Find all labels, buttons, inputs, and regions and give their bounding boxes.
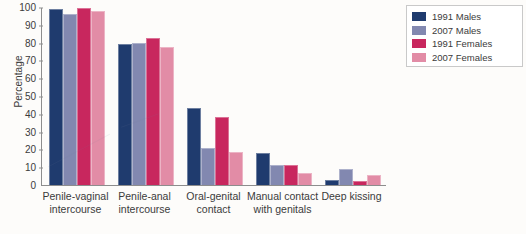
y-tick-label: 40 bbox=[3, 110, 36, 120]
y-tick-mark bbox=[39, 168, 43, 169]
chart-figure: Percentage 0102030405060708090100 Penile… bbox=[0, 0, 526, 234]
legend-swatch bbox=[412, 12, 426, 21]
y-tick-mark bbox=[39, 61, 43, 62]
bar bbox=[187, 108, 201, 185]
bar bbox=[146, 38, 160, 185]
y-tick-mark bbox=[39, 114, 43, 115]
bar bbox=[367, 175, 381, 185]
y-tick-mark bbox=[39, 79, 43, 80]
bar-group bbox=[325, 8, 381, 185]
y-tick-mark bbox=[39, 43, 43, 44]
legend-swatch bbox=[412, 39, 426, 48]
bar bbox=[325, 180, 339, 185]
legend-label: 1991 Females bbox=[432, 39, 492, 49]
y-tick-label: 30 bbox=[3, 128, 36, 138]
y-tick-mark bbox=[39, 150, 43, 151]
bar bbox=[77, 8, 91, 185]
plot-area bbox=[41, 8, 386, 186]
x-tick-label: Deep kissing bbox=[308, 190, 396, 203]
y-tick-label: 20 bbox=[3, 145, 36, 155]
y-tick-label: 60 bbox=[3, 74, 36, 84]
bar bbox=[353, 181, 367, 185]
bar bbox=[270, 165, 284, 185]
bar bbox=[339, 169, 353, 185]
bar-group bbox=[187, 8, 243, 185]
bar bbox=[132, 43, 146, 185]
legend-item: 2007 Males bbox=[412, 24, 517, 38]
legend-label: 2007 Females bbox=[432, 53, 492, 63]
y-tick-label: 10 bbox=[3, 163, 36, 173]
bar bbox=[284, 165, 298, 185]
bars-container bbox=[42, 8, 386, 185]
bar bbox=[63, 14, 77, 185]
bar-group bbox=[118, 8, 174, 185]
y-tick-label: 70 bbox=[3, 56, 36, 66]
bar bbox=[118, 44, 132, 185]
bar bbox=[201, 148, 215, 185]
bar-group bbox=[49, 8, 105, 185]
legend-item: 2007 Females bbox=[412, 51, 517, 65]
y-tick-mark bbox=[39, 97, 43, 98]
legend-item: 1991 Females bbox=[412, 37, 517, 51]
bar bbox=[256, 153, 270, 185]
y-tick-label: 90 bbox=[3, 21, 36, 31]
bar bbox=[298, 173, 312, 185]
bar bbox=[229, 152, 243, 185]
bar bbox=[160, 47, 174, 185]
legend-item: 1991 Males bbox=[412, 10, 517, 24]
y-tick-label: 100 bbox=[3, 3, 36, 13]
legend-swatch bbox=[412, 26, 426, 35]
legend: 1991 Males2007 Males1991 Females2007 Fem… bbox=[406, 5, 523, 67]
y-tick-mark bbox=[39, 8, 43, 9]
y-tick-label: 50 bbox=[3, 92, 36, 102]
legend-swatch bbox=[412, 53, 426, 62]
bar-group bbox=[256, 8, 312, 185]
legend-label: 1991 Males bbox=[432, 12, 481, 22]
bar bbox=[91, 11, 105, 185]
y-tick-mark bbox=[39, 132, 43, 133]
y-tick-mark bbox=[39, 25, 43, 26]
legend-label: 2007 Males bbox=[432, 26, 481, 36]
bar bbox=[49, 9, 63, 185]
y-tick-label: 80 bbox=[3, 39, 36, 49]
bar bbox=[215, 117, 229, 185]
